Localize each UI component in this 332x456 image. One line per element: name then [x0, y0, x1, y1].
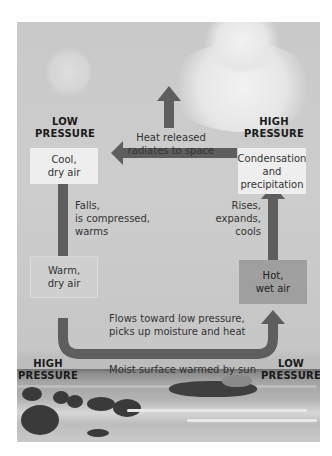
cool-dry-air-box: Cool, dry air: [30, 148, 98, 184]
up-arrow-heat-icon: [157, 86, 181, 128]
heat-released-caption: Heat released radiates to space: [125, 131, 217, 157]
falls-caption: Falls, is compressed, warms: [75, 199, 165, 238]
diagram-panel: LOW PRESSURE HIGH PRESSURE HIGH PRESSURE…: [17, 22, 320, 442]
pressure-label-top-right: HIGH PRESSURE: [241, 116, 307, 140]
up-arrow-rises-icon: [261, 185, 285, 263]
pressure-label-bottom-right: LOW PRESSURE: [260, 358, 320, 382]
condensation-box: Condensation and precipitation: [238, 148, 306, 194]
hot-wet-air-box: Hot, wet air: [239, 260, 307, 304]
surface-caption: Moist surface warmed by sun: [109, 363, 259, 376]
pressure-label-top-left: LOW PRESSURE: [35, 116, 95, 140]
pressure-label-bottom-left: HIGH PRESSURE: [17, 358, 79, 382]
warm-dry-air-box: Warm, dry air: [30, 256, 98, 298]
flows-caption: Flows toward low pressure, picks up mois…: [109, 312, 259, 338]
rises-caption: Rises, expands, cools: [207, 199, 261, 238]
u-flow-arrowhead-icon: [261, 310, 285, 324]
